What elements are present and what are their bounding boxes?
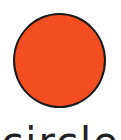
circle-shape [13,13,106,108]
shape-label: circle [0,122,121,140]
